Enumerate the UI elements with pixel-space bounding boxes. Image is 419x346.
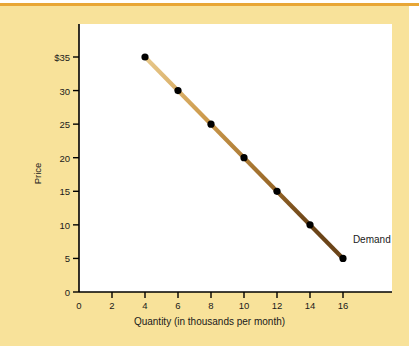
axes-group <box>79 24 392 292</box>
y-axis-tick-label: 10 <box>59 219 70 230</box>
demand-curve-figure: Price Quantity (in thousands per month) … <box>0 0 419 346</box>
x-axis-tick-label: 4 <box>142 300 147 311</box>
y-axis-tick-label: 25 <box>59 119 70 130</box>
y-axis-tick-label: $35 <box>54 52 70 63</box>
demand-data-point <box>306 221 313 228</box>
y-axis-label: Price <box>32 153 43 193</box>
demand-data-point <box>240 154 247 161</box>
x-axis-tick-label: 16 <box>338 300 349 311</box>
demand-data-point <box>273 188 280 195</box>
demand-data-point <box>141 53 148 60</box>
demand-data-point <box>207 121 214 128</box>
y-axis-tick-label: 30 <box>59 85 70 96</box>
demand-data-point <box>174 87 181 94</box>
x-axis-tick-label: 14 <box>305 300 316 311</box>
x-axis-tick-label: 12 <box>272 300 283 311</box>
demand-data-point <box>339 255 346 262</box>
x-axis-tick-label: 10 <box>239 300 250 311</box>
demand-series-label: Demand <box>353 234 391 245</box>
x-axis-tick-label: 2 <box>109 300 114 311</box>
x-axis-tick-label: 0 <box>76 300 81 311</box>
x-axis-tick-label: 8 <box>208 300 213 311</box>
y-axis-tick-label: 15 <box>59 186 70 197</box>
axis-ticks-group <box>73 57 343 298</box>
x-axis-tick-label: 6 <box>175 300 180 311</box>
y-axis-tick-label: 20 <box>59 152 70 163</box>
y-axis-tick-label: 5 <box>65 253 70 264</box>
x-axis-label: Quantity (in thousands per month) <box>0 316 419 327</box>
y-axis-tick-label: 0 <box>65 287 70 298</box>
